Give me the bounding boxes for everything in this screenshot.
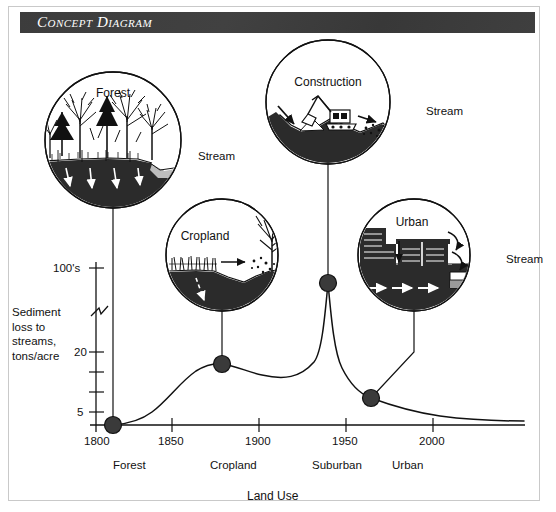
stream-label-forest: Stream	[198, 149, 235, 164]
callout-urban[interactable]: Urban	[358, 199, 472, 316]
stream-label-construction: Stream	[426, 104, 463, 119]
callout-cropland[interactable]: Cropland	[166, 199, 290, 316]
callout-label-cropland: Cropland	[181, 229, 230, 243]
stage-label-suburban: Suburban	[312, 458, 362, 473]
y-tick-label-100s: 100's	[53, 261, 80, 276]
y-axis-title-line-4: tons/acre	[12, 349, 61, 364]
stage-label-cropland: Cropland	[210, 458, 257, 473]
y-axis-title: Sediment loss to streams, tons/acre	[12, 305, 61, 364]
callout-label-forest: Forest	[96, 86, 131, 100]
x-axis-title: Land Use	[247, 489, 298, 504]
x-tick-label-1850: 1850	[158, 434, 184, 449]
concept-diagram-page: Concept Diagram	[0, 0, 556, 512]
point-cropland	[214, 356, 231, 373]
callout-label-construction: Construction	[294, 75, 361, 89]
point-suburban	[320, 275, 337, 292]
y-tick-label-20: 20	[74, 345, 87, 360]
point-forest	[105, 417, 122, 434]
y-axis-title-line-2: loss to	[12, 320, 61, 335]
callout-label-urban: Urban	[396, 215, 429, 229]
stage-label-urban: Urban	[392, 458, 423, 473]
curve-path	[113, 283, 524, 425]
sediment-loss-curve	[113, 283, 524, 425]
point-urban	[363, 390, 380, 407]
y-axis-break-mark	[91, 306, 108, 316]
y-axis-title-line-1: Sediment	[12, 305, 61, 320]
y-tick-label-5: 5	[77, 405, 83, 420]
callout-forest[interactable]: Forest	[41, 72, 181, 215]
x-tick-label-1800: 1800	[84, 434, 110, 449]
stage-label-forest: Forest	[113, 458, 146, 473]
callout-construction[interactable]: Construction	[266, 40, 391, 170]
x-tick-label-1950: 1950	[332, 434, 358, 449]
y-axis-title-line-3: streams,	[12, 334, 61, 349]
x-tick-label-2000: 2000	[419, 434, 445, 449]
leader-urban	[371, 311, 414, 398]
x-tick-label-1900: 1900	[245, 434, 271, 449]
callout-leader-lines	[113, 164, 414, 425]
stream-label-urban: Stream	[506, 252, 543, 267]
